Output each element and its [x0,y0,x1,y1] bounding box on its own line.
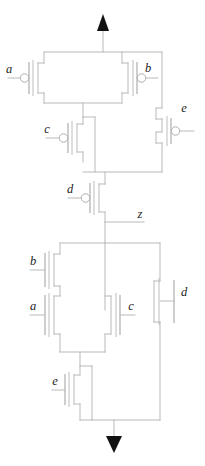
output-node-z: z [105,207,144,243]
nmos-d-label: d [181,285,188,299]
pmos-transistor-e: e [156,52,194,172]
pmos-transistor-a: a [6,52,44,103]
pmos-d-label: d [67,182,74,196]
nmos-c-label: c [128,299,134,313]
pmos-b-inversion-bubble-icon [137,74,145,82]
pmos-b-label: b [145,61,151,75]
nmos-e-label: e [52,374,58,388]
pmos-merge-wires [83,172,162,184]
circuit-schematic-canvas: a b [0,0,205,466]
nmos-transistor-c: c [105,293,135,352]
pmos-transistor-c: c [44,117,95,172]
pmos-transistor-d: d [67,181,105,222]
pmos-e-label: e [181,101,187,115]
pmos-a-inversion-bubble-icon [20,74,28,82]
pmos-d-inversion-bubble-icon [81,194,89,202]
pmos-a-label: a [6,62,12,76]
nmos-ac-parallel-wires [60,352,105,366]
vdd-rail-group [44,14,162,52]
nmos-top-rail-group [60,243,160,310]
circuit-schematic-svg: a b [0,0,205,466]
nmos-transistor-b: b [30,243,60,296]
nmos-transistor-d: d [154,243,188,420]
gnd-arrow-icon [106,436,122,453]
pmos-transistor-b: b [122,52,158,103]
vdd-arrow-icon [97,14,109,31]
nmos-a-label: a [30,299,36,313]
pmos-c-inversion-bubble-icon [59,134,67,142]
nmos-transistor-e: e [52,366,92,420]
pmos-e-inversion-bubble-icon [171,127,179,135]
pmos-ab-parallel-wires [44,103,122,117]
gnd-rail-group [80,420,160,453]
nmos-b-label: b [30,254,36,268]
pmos-c-label: c [44,122,50,136]
nmos-transistor-a: a [30,293,60,352]
output-z-label: z [137,207,143,221]
